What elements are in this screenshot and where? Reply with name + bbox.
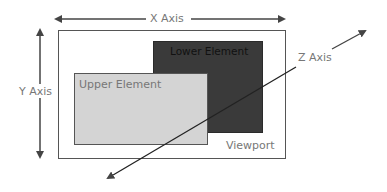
- viewport-axes-diagram: Lower Element Upper Element X Axis Y: [0, 0, 387, 192]
- y-axis-label: Y Axis: [19, 86, 52, 97]
- axes-overlay: [0, 0, 387, 192]
- viewport-label: Viewport: [226, 140, 275, 151]
- x-axis-label: X Axis: [150, 13, 184, 24]
- z-axis-label: Z Axis: [298, 52, 332, 63]
